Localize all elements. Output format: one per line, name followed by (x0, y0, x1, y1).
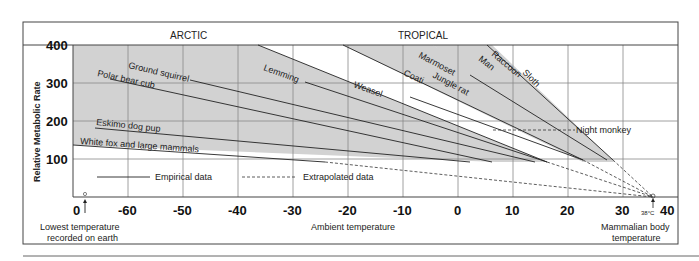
lowest-temp-note-1: Lowest temperature (40, 222, 120, 232)
y-tick-100: 100 (46, 152, 68, 167)
x-tick-m30: -30 (283, 203, 302, 218)
x-axis-title: Ambient temperature (311, 222, 395, 232)
x-tick-0: 0 (454, 203, 461, 218)
zone-label-tropical: TROPICAL (398, 30, 448, 41)
legend-empirical: Empirical data (155, 172, 212, 182)
x-tick-m40: -40 (228, 203, 247, 218)
x-tick-20: 20 (560, 203, 574, 218)
body-temp-value: 38°C (641, 210, 655, 216)
metabolic-rate-chart: ARCTIC TROPICAL Empirical data Extrapola… (0, 0, 699, 261)
y-tick-200: 200 (46, 114, 68, 129)
x-tick-30: 30 (615, 203, 629, 218)
legend-extrapolated: Extrapolated data (303, 172, 374, 182)
body-temp-note-1: Mammalian body (601, 222, 670, 232)
zone-label-arctic: ARCTIC (170, 30, 207, 41)
y-tick-300: 300 (46, 76, 68, 91)
y-tick-400: 400 (46, 38, 68, 53)
x-tick-40: 40 (660, 203, 674, 218)
x-tick-10: 10 (505, 203, 519, 218)
x-tick-m20: -20 (338, 203, 357, 218)
x-tick-m10: -10 (393, 203, 412, 218)
y-axis-title: Relative Metabolic Rate (32, 81, 42, 182)
lowest-temp-note-2: recorded on earth (47, 233, 118, 243)
body-temp-note-2: temperature (612, 233, 661, 243)
x-tick-m50: -50 (173, 203, 192, 218)
label-night-monkey: Night monkey (576, 125, 632, 135)
x-tick-m60: -60 (118, 203, 137, 218)
x-tick-lowest: 0 (73, 203, 80, 218)
